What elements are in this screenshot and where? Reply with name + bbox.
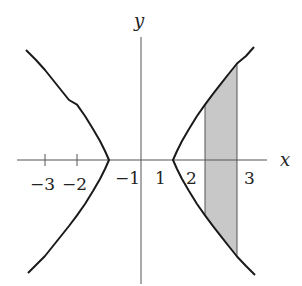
hyperbola-left-branch xyxy=(26,50,109,273)
tick-label--1: −1 xyxy=(115,168,140,188)
x-axis-label: x xyxy=(280,149,290,170)
tick-label-1: 1 xyxy=(155,168,166,188)
tick-label--3: −3 xyxy=(30,174,55,194)
y-axis-label: y xyxy=(133,10,145,31)
tick-label-2: 2 xyxy=(186,168,197,188)
tick-label-3: 3 xyxy=(244,168,255,188)
tick-label--2: −2 xyxy=(62,174,87,194)
hyperbola-diagram: y x −3 −2 −1 1 2 3 xyxy=(0,0,302,286)
